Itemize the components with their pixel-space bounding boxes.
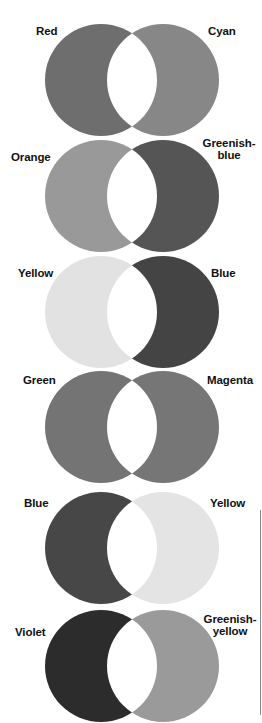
label-blue-2: Blue bbox=[24, 497, 49, 509]
label-orange: Orange bbox=[11, 151, 51, 163]
label-red: Red bbox=[36, 25, 57, 37]
label-greenish-yellow: Greenish- yellow bbox=[201, 613, 259, 637]
circle-pair-6 bbox=[45, 610, 219, 722]
right-color-circle bbox=[107, 492, 219, 604]
circle-pair-5 bbox=[45, 492, 219, 604]
label-yellow-2: Yellow bbox=[210, 497, 245, 509]
circle-pair-1 bbox=[45, 24, 219, 136]
label-greenish-blue-line2: blue bbox=[201, 149, 257, 161]
right-color-circle bbox=[107, 371, 219, 483]
label-magenta: Magenta bbox=[207, 374, 253, 386]
label-yellow: Yellow bbox=[18, 267, 53, 279]
label-green: Green bbox=[23, 374, 56, 386]
label-greenish-blue-line1: Greenish- bbox=[201, 137, 257, 149]
complementary-color-diagram: Red Cyan Orange Greenish- blue Yellow Bl… bbox=[0, 0, 262, 723]
circle-pair-2 bbox=[45, 140, 219, 252]
label-greenish-blue: Greenish- blue bbox=[201, 137, 257, 161]
label-blue: Blue bbox=[211, 267, 236, 279]
right-color-circle bbox=[107, 256, 219, 368]
circle-pair-3 bbox=[45, 256, 219, 368]
label-violet: Violet bbox=[15, 626, 46, 638]
label-greenish-yellow-line1: Greenish- bbox=[201, 613, 259, 625]
circle-pair-4 bbox=[45, 371, 219, 483]
page-edge-rule bbox=[260, 510, 261, 715]
right-color-circle bbox=[107, 24, 219, 136]
label-greenish-yellow-line2: yellow bbox=[201, 625, 259, 637]
label-cyan: Cyan bbox=[208, 25, 236, 37]
